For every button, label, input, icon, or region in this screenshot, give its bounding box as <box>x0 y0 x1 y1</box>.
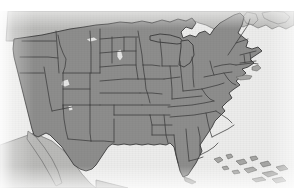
map-image <box>0 0 294 194</box>
map-canvas <box>0 11 294 188</box>
page-bottom-margin <box>0 188 294 194</box>
page-top-margin <box>0 0 294 11</box>
us-map-svg <box>0 11 294 188</box>
